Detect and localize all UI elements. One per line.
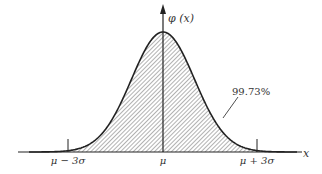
tick-label-mu: μ <box>160 155 167 166</box>
x-axis-label: x <box>303 147 310 160</box>
diagram-canvas: φ (x) x 99.73% μ − 3σ μ μ + 3σ <box>0 0 322 174</box>
tick-label-mu-minus-3sigma: μ − 3σ <box>51 155 87 166</box>
tick-label-mu-plus-3sigma: μ + 3σ <box>240 155 276 166</box>
y-axis-label: φ (x) <box>168 12 194 25</box>
y-axis-arrow-icon <box>160 4 166 14</box>
normal-distribution-diagram: φ (x) x 99.73% μ − 3σ μ μ + 3σ <box>0 0 322 174</box>
area-label-leader <box>223 97 238 118</box>
area-label: 99.73% <box>232 86 270 97</box>
